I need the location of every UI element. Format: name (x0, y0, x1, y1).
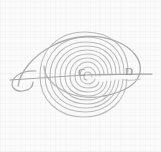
point-label-c: C (78, 67, 85, 78)
figure-root: C D (0, 0, 161, 152)
point-label-d: D (125, 66, 133, 77)
d-tail (124, 79, 140, 80)
left-hook (12, 71, 36, 91)
